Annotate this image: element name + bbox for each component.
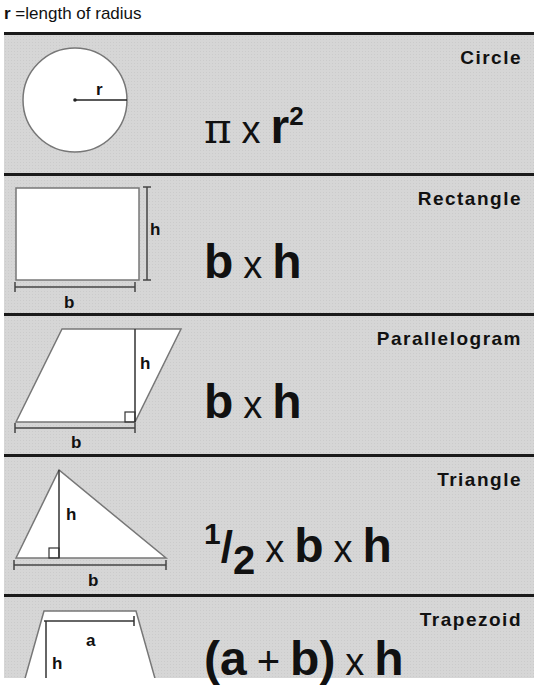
formula-h: h xyxy=(272,375,301,428)
parallelogram-panel: h b Parallelogram bxh xyxy=(4,316,534,454)
triangle-formula: 1/2xbxh xyxy=(204,517,392,583)
formula-h: h xyxy=(374,632,403,685)
circle-diagram: r xyxy=(4,35,204,173)
formula-h: h xyxy=(363,519,392,572)
plus-symbol: + xyxy=(257,639,280,683)
times-symbol: x xyxy=(265,528,284,570)
base-label: b xyxy=(64,293,74,312)
triangle-panel: h b Triangle 1/2xbxh xyxy=(4,457,534,594)
top-base-label: a xyxy=(86,631,96,650)
shape-name: Parallelogram xyxy=(377,328,522,350)
trapezoid-diagram: a h xyxy=(4,597,204,678)
times-symbol: x xyxy=(334,528,353,570)
times-symbol: x xyxy=(345,641,364,683)
legend: r =length of radius xyxy=(4,4,142,24)
shape-name: Triangle xyxy=(437,469,522,491)
height-label: h xyxy=(140,354,150,373)
radius-label: r xyxy=(96,80,103,99)
times-symbol: x xyxy=(243,384,262,426)
times-symbol: x xyxy=(242,109,261,151)
rectangle-formula: bxh xyxy=(204,234,302,289)
formula-b: b xyxy=(294,519,323,572)
shape-name: Circle xyxy=(460,47,522,69)
base-label: b xyxy=(71,433,81,452)
trapezoid-panel: a h Trapezoid (a+b)xh xyxy=(4,597,534,678)
fraction-slash: / xyxy=(221,522,233,571)
formula-exponent: 2 xyxy=(289,101,303,131)
parallelogram-formula: bxh xyxy=(204,374,302,429)
fraction-denominator: 2 xyxy=(233,538,255,582)
fraction-numerator: 1 xyxy=(204,517,221,550)
circle-panel: r Circle πxr2 xyxy=(4,35,534,173)
formula-a: a xyxy=(220,632,247,685)
height-label: h xyxy=(150,220,160,239)
shape-name: Trapezoid xyxy=(420,609,522,631)
base-label: b xyxy=(88,571,98,590)
parallelogram-diagram: h b xyxy=(4,316,204,454)
legend-symbol: r xyxy=(4,4,11,23)
rectangle-panel: h b Rectangle bxh xyxy=(4,176,534,313)
rectangle-diagram: h b xyxy=(4,176,204,313)
shape-name: Rectangle xyxy=(418,188,522,210)
circle-formula: πxr2 xyxy=(204,99,304,154)
formula-b: b xyxy=(204,235,233,288)
formula-b: b xyxy=(290,632,319,685)
height-label: h xyxy=(66,505,76,524)
triangle-diagram: h b xyxy=(4,457,204,594)
pi-symbol: π xyxy=(204,104,232,153)
times-symbol: x xyxy=(243,244,262,286)
close-paren: ) xyxy=(319,632,335,685)
formula-b: b xyxy=(204,375,233,428)
formula-var: r xyxy=(271,100,290,153)
trapezoid-formula: (a+b)xh xyxy=(204,631,404,686)
formula-h: h xyxy=(272,235,301,288)
open-paren: ( xyxy=(204,632,220,685)
height-label: h xyxy=(52,654,62,673)
legend-text: =length of radius xyxy=(15,4,141,23)
